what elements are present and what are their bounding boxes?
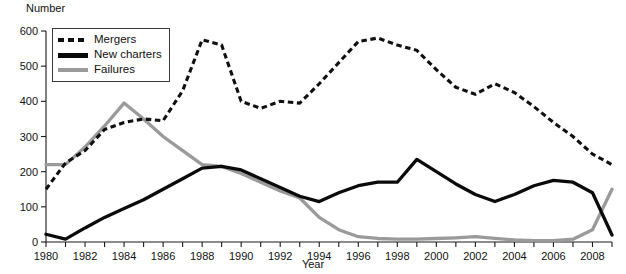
legend-label-mergers: Mergers [94, 33, 136, 46]
y-axis-ticks: 0100200300400500600 [20, 25, 46, 248]
legend-label-failures: Failures [94, 63, 135, 76]
y-tick-label: 200 [20, 166, 38, 178]
legend-item-mergers: Mergers [58, 32, 162, 47]
y-tick-label: 0 [32, 236, 38, 248]
legend-label-new-charters: New charters [94, 48, 162, 61]
y-tick-label: 500 [20, 60, 38, 72]
chart-legend: Mergers New charters Failures [52, 28, 170, 82]
x-axis-title: Year [0, 258, 626, 270]
y-tick-label: 300 [20, 131, 38, 143]
legend-item-new-charters: New charters [58, 47, 162, 62]
chart-figure: Number 0100200300400500600 1980198219841… [0, 0, 626, 274]
legend-swatch-solid-black-icon [58, 49, 88, 61]
legend-item-failures: Failures [58, 62, 162, 77]
legend-swatch-dotted-icon [58, 34, 88, 46]
y-tick-label: 400 [20, 95, 38, 107]
legend-swatch-solid-gray-icon [58, 64, 88, 76]
series-line-new-charters [46, 159, 612, 239]
y-tick-label: 100 [20, 201, 38, 213]
y-tick-label: 600 [20, 25, 38, 37]
series-line-failures [46, 103, 612, 241]
